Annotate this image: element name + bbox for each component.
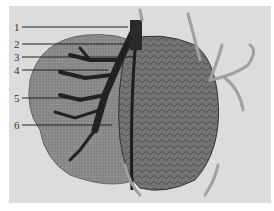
vessel-trunk: [130, 20, 142, 50]
label-5: 5: [14, 93, 20, 104]
label-2: 2: [14, 39, 20, 50]
label-6: 6: [14, 120, 20, 131]
label-3: 3: [14, 52, 20, 63]
organ-illustration: [0, 0, 274, 211]
label-4: 4: [14, 65, 20, 76]
label-1: 1: [14, 22, 20, 33]
